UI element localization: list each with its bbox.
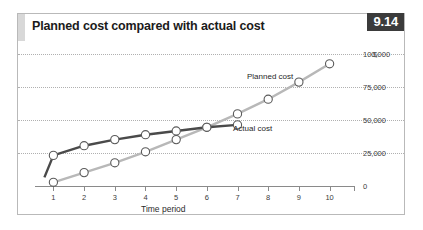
- data-point-marker: [111, 159, 119, 167]
- data-point-marker: [326, 60, 334, 68]
- data-point-marker: [141, 148, 149, 156]
- data-point-marker: [264, 95, 272, 103]
- data-point-marker: [233, 110, 241, 118]
- data-point-marker: [172, 136, 180, 144]
- data-point-marker: [295, 78, 303, 86]
- data-point-marker: [141, 131, 149, 139]
- data-point-marker: [49, 178, 57, 186]
- data-point-marker: [203, 123, 211, 131]
- data-point-marker: [172, 127, 180, 135]
- actual-cost-annotation: Actual cost: [233, 124, 272, 133]
- data-point-marker: [80, 142, 88, 150]
- data-point-marker: [80, 169, 88, 177]
- series-svg: [18, 14, 406, 216]
- figure-container: Planned cost compared with actual cost 9…: [17, 13, 405, 215]
- planned-cost-line: [53, 64, 329, 183]
- data-point-marker: [49, 151, 57, 159]
- data-point-marker: [111, 136, 119, 144]
- planned-cost-annotation: Planned cost: [247, 72, 293, 81]
